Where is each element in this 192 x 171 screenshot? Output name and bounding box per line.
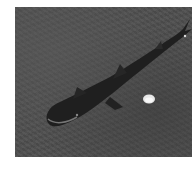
shark-illustration [15,7,192,157]
shark-photo [15,7,192,157]
